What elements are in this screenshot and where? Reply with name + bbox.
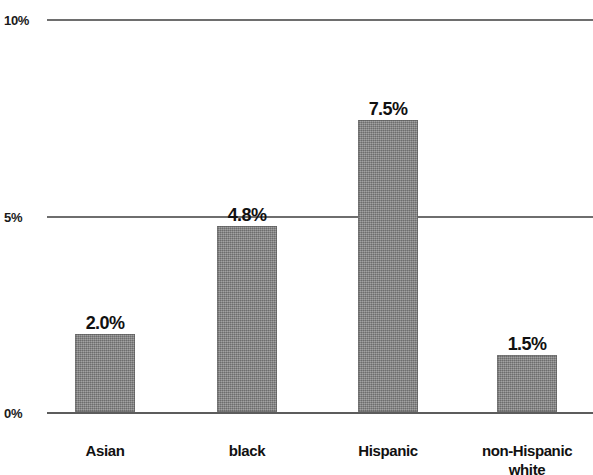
category-label-non-hispanic-white: non-Hispanic white <box>462 441 592 475</box>
value-label-asian: 2.0% <box>60 314 150 332</box>
value-label-black: 4.8% <box>202 206 292 224</box>
y-axis-tick-label-10: 10% <box>4 14 42 27</box>
bar-asian <box>75 334 135 412</box>
gridline-10-percent <box>47 19 593 21</box>
value-label-non-hispanic-white: 1.5% <box>482 335 572 353</box>
bar-non-hispanic-white <box>497 355 557 412</box>
category-label-black: black <box>182 441 312 460</box>
bar-hispanic <box>358 120 418 412</box>
axis-baseline-0-percent <box>47 412 593 414</box>
category-label-hispanic: Hispanic <box>323 441 453 460</box>
y-axis-tick-label-5: 5% <box>4 211 42 224</box>
y-axis-tick-label-0: 0% <box>4 407 42 420</box>
value-label-hispanic: 7.5% <box>343 100 433 118</box>
category-label-asian: Asian <box>40 441 170 460</box>
gridline-5-percent <box>47 216 593 218</box>
bar-black <box>217 226 277 412</box>
bar-chart: 10% 5% 0% 2.0% 4.8% 7.5% 1.5% Asian blac… <box>0 0 593 475</box>
